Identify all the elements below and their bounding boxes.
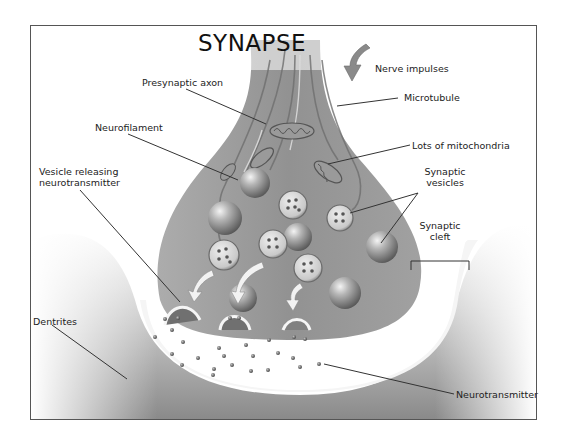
label-vesicle-releasing-line2: neurotransmitter <box>39 177 120 188</box>
label-vesicle-releasing-line1: Vesicle releasing <box>39 166 120 177</box>
nerve-impulse-arrow <box>344 44 370 81</box>
label-lots-of-mitochondria: Lots of mitochondria <box>412 140 510 151</box>
label-neurofilament: Neurofilament <box>95 122 163 133</box>
label-dentrites: Dentrites <box>33 316 77 327</box>
label-synaptic-cleft-line2: cleft <box>415 231 465 242</box>
label-nerve-impulses: Nerve impulses <box>375 63 449 74</box>
label-vesicle-releasing-neurotransmitter: Vesicle releasing neurotransmitter <box>39 166 120 188</box>
label-synaptic-cleft: Synaptic cleft <box>415 220 465 242</box>
label-synaptic-cleft-line1: Synaptic <box>415 220 465 231</box>
label-synaptic-vesicles: Synaptic vesicles <box>420 166 470 188</box>
diagram-title: SYNAPSE <box>198 30 306 56</box>
synapse-illustration <box>0 0 563 440</box>
label-microtubule: Microtubule <box>404 92 460 103</box>
label-neurotransmitter: Neurotransmitter <box>456 389 538 400</box>
label-presynaptic-axon: Presynaptic axon <box>142 77 223 88</box>
label-synaptic-vesicles-line2: vesicles <box>420 177 470 188</box>
label-synaptic-vesicles-line1: Synaptic <box>420 166 470 177</box>
